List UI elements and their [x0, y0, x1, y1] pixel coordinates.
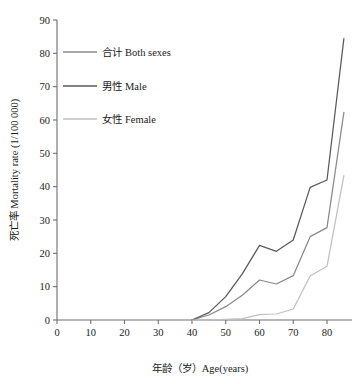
series-line-0 [192, 112, 344, 320]
legend-label-2: 女性Female [102, 113, 156, 125]
x-tick-label: 40 [187, 327, 198, 338]
legend-label-en-0: Both sexes [125, 47, 171, 58]
x-tick-label: 0 [54, 327, 59, 338]
y-tick-group: 0102030405060708090 [40, 15, 58, 326]
legend-label-en-1: Male [125, 81, 147, 92]
x-tick-label: 10 [86, 327, 97, 338]
legend-label-en-2: Female [125, 114, 156, 125]
legend-label-cjk-2: 女性 [102, 113, 122, 125]
y-tick-label: 10 [40, 281, 51, 292]
legend-label-cjk-1: 男性 [102, 80, 122, 92]
mortality-rate-by-age-chart: 0102030405060708090 01020304050607080 合计… [0, 0, 358, 384]
x-axis-title: 年龄（岁）Age(years) [152, 362, 249, 375]
y-tick-label: 50 [40, 148, 51, 159]
chart-legend: 合计Both sexes男性Male女性Female [63, 46, 171, 125]
y-tick-label: 40 [40, 181, 51, 192]
legend-label-0: 合计Both sexes [102, 46, 171, 58]
y-tick-label: 30 [40, 215, 51, 226]
x-tick-label: 80 [322, 327, 333, 338]
y-tick-label: 80 [40, 48, 51, 59]
y-tick-label: 20 [40, 248, 51, 259]
legend-label-1: 男性Male [102, 80, 147, 92]
y-axis-title: 死亡率 Mortality rate (1/100 000) [8, 98, 21, 241]
x-axis-group: 01020304050607080 [54, 320, 352, 338]
x-tick-label: 20 [119, 327, 130, 338]
x-tick-group: 01020304050607080 [54, 320, 332, 338]
y-tick-label: 0 [45, 315, 50, 326]
x-tick-label: 60 [254, 327, 265, 338]
x-tick-label: 50 [221, 327, 232, 338]
y-axis-group: 0102030405060708090 [40, 15, 58, 326]
data-series-group [192, 39, 344, 320]
x-tick-label: 70 [288, 327, 299, 338]
x-tick-label: 30 [153, 327, 164, 338]
series-line-1 [192, 39, 344, 320]
legend-label-cjk-0: 合计 [102, 46, 123, 58]
y-tick-label: 90 [40, 15, 51, 26]
y-tick-label: 70 [40, 81, 51, 92]
chart-canvas: 0102030405060708090 01020304050607080 合计… [0, 0, 358, 384]
y-tick-label: 60 [40, 115, 51, 126]
